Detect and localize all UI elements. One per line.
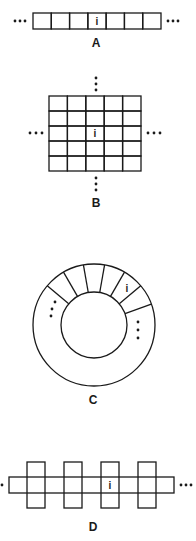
panel-a-cell [143,13,161,29]
panel-d-vertical-cells [27,462,156,508]
periodic-boundary-figure: i A i B [0,0,196,541]
panel-b-cell [49,141,67,156]
panel-b-cell [86,96,104,111]
panel-c: i C [33,264,155,407]
panel-b-cell [86,141,104,156]
panel-b-cell [86,111,104,126]
panel-c-segment-divider [47,286,68,304]
panel-c-segment-divider [125,304,151,314]
panel-b-cell [49,111,67,126]
panel-a-left-ellipsis [14,20,27,23]
panel-b-cell [123,126,141,141]
panel-a-cell [70,13,88,29]
panel-d-marked-cell-text: i [109,480,112,491]
panel-c-left-ellipsis [50,301,57,318]
panel-c-segment-divider [119,286,140,304]
panel-c-segment-divider [100,265,105,293]
panel-d-horizontal-bar [9,477,174,493]
panel-b-bottom-ellipsis [95,177,98,192]
panel-a-cell [51,13,69,29]
panel-b-top-ellipsis [95,77,98,92]
panel-d-vertical-cell [64,462,82,508]
panel-b-marked-cell-text: i [94,128,97,139]
panel-d-label: D [89,520,98,534]
panel-b-cell [67,156,85,171]
panel-c-inner-circle [61,292,127,358]
panel-a-right-ellipsis [167,20,180,23]
panel-b-cell [67,96,85,111]
panel-b-cell [67,141,85,156]
panel-d-vertical-cell [138,462,156,508]
panel-b-cell [49,126,67,141]
panel-b-cell [123,156,141,171]
panel-c-marked-cell-text: i [126,283,129,294]
panel-b-cell [49,156,67,171]
panel-b-cell [67,111,85,126]
panel-d-right-ellipsis [180,484,193,487]
panel-b-cell [104,126,122,141]
panel-c-segment-divider [111,272,125,296]
panel-a-cell [106,13,124,29]
panel-b-cell [67,126,85,141]
panel-d-vertical-cell [27,462,45,508]
panel-a-cell [124,13,142,29]
panel-c-right-ellipsis [137,321,140,340]
panel-b-cell [86,156,104,171]
panel-b-cell [123,111,141,126]
panel-c-segment-divider [83,265,88,293]
panel-a-cell [33,13,51,29]
panel-b-cell [104,141,122,156]
panel-b-left-ellipsis [29,132,44,135]
panel-b-cell [123,141,141,156]
panel-a-label: A [92,36,101,50]
panel-b-cell [104,156,122,171]
panel-a: i A [14,13,180,50]
panel-b: i B [29,77,162,210]
panel-b-cell [123,96,141,111]
panel-b-right-ellipsis [147,132,162,135]
panel-a-marked-cell-text: i [96,16,99,27]
panel-c-outer-circle [33,264,155,386]
panel-c-label: C [89,393,98,407]
panel-d-left-ellipsis [1,484,4,487]
panel-b-cell [104,111,122,126]
panel-b-cell [104,96,122,111]
panel-b-label: B [92,196,101,210]
panel-d: i D [1,462,193,534]
panel-b-cell [49,96,67,111]
panel-c-segment-divider [64,272,78,296]
